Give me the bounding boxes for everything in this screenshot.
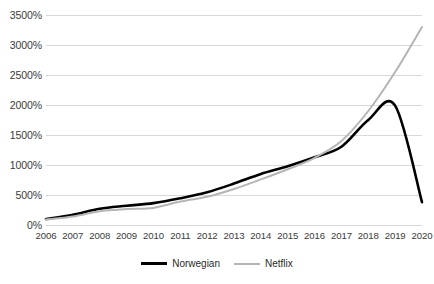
x-axis-tick-label: 2014	[246, 231, 276, 241]
x-axis-tick-label: 2016	[300, 231, 330, 241]
chart-plot-area	[0, 0, 434, 284]
x-axis-tick-label: 2017	[326, 231, 356, 241]
y-axis-tick-label: 1000%	[0, 160, 42, 171]
x-axis-tick-label: 2020	[407, 231, 434, 241]
x-axis-tick-label: 2018	[353, 231, 383, 241]
x-axis-tick-label: 2008	[85, 231, 115, 241]
legend-item-norwegian[interactable]: Norwegian	[141, 258, 220, 269]
y-axis-tick-label: 0%	[0, 220, 42, 231]
x-axis-tick-label: 2006	[31, 231, 61, 241]
legend-swatch-norwegian-icon	[141, 262, 167, 265]
chart-legend: Norwegian Netflix	[0, 258, 434, 269]
line-chart: 0%500%1000%1500%2000%2500%3000%3500% 200…	[0, 0, 434, 284]
y-axis-tick-label: 2000%	[0, 100, 42, 111]
y-axis-tick-label: 3500%	[0, 10, 42, 21]
x-axis-tick-label: 2010	[138, 231, 168, 241]
x-axis-tick-label: 2011	[165, 231, 195, 241]
x-axis-tick-label: 2012	[192, 231, 222, 241]
legend-label-norwegian: Norwegian	[172, 258, 220, 269]
y-axis-tick-label: 3000%	[0, 40, 42, 51]
x-axis-tick-label: 2009	[112, 231, 142, 241]
x-axis-tick-label: 2015	[273, 231, 303, 241]
series-lines	[46, 27, 422, 220]
y-axis-tick-label: 500%	[0, 190, 42, 201]
legend-item-netflix[interactable]: Netflix	[234, 258, 293, 269]
gridlines	[46, 15, 422, 225]
legend-swatch-netflix-icon	[234, 263, 260, 265]
y-axis-tick-label: 1500%	[0, 130, 42, 141]
series-line-norwegian	[46, 101, 422, 219]
x-axis-tick-label: 2013	[219, 231, 249, 241]
y-axis-tick-label: 2500%	[0, 70, 42, 81]
legend-label-netflix: Netflix	[265, 258, 293, 269]
x-axis-tick-label: 2007	[58, 231, 88, 241]
x-axis-tick-label: 2019	[380, 231, 410, 241]
